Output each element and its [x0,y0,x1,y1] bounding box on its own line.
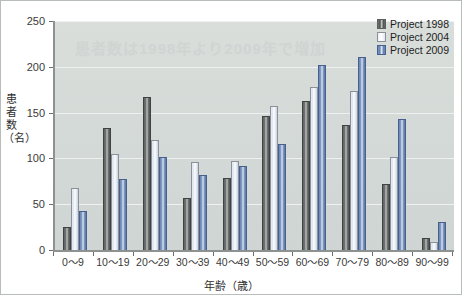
bar [310,87,318,250]
bar [71,188,79,250]
bar [79,211,87,250]
bar [422,238,430,250]
bar [223,178,231,250]
bar [191,162,199,250]
legend-item[interactable]: Project 2004 [377,31,449,43]
x-tick-label: 20〜29 [133,254,173,269]
bar [159,157,167,250]
bar [151,140,159,250]
bar-group [294,21,334,250]
bar [63,227,71,250]
x-tick-label: 70〜79 [332,254,372,269]
bar-group [334,21,374,250]
bar-group [55,21,95,250]
bar [183,198,191,250]
bar-group [95,21,135,250]
x-tick-label: 30〜39 [173,254,213,269]
bar [342,125,350,250]
bar [231,161,239,250]
x-tick-mark [452,252,453,256]
bar-group [255,21,295,250]
chart-figure: 050100150200250 患者数（名） 患者数は1998年より2009年で… [0,0,462,295]
dark-gray-bar-swatch [377,19,386,29]
y-tick-label: 150 [27,107,45,119]
bar [390,157,398,250]
x-tick-label: 0〜9 [53,254,93,269]
bar [262,116,270,250]
x-tick-label: 50〜59 [253,254,293,269]
bar [239,166,247,250]
x-tick-label: 10〜19 [93,254,133,269]
legend-label: Project 1998 [390,18,449,30]
bar-group [175,21,215,250]
bar [143,97,151,250]
x-axis-title: 年齢（歳） [1,277,461,293]
bar [382,184,390,250]
x-tick-label: 40〜49 [213,254,253,269]
bar [111,154,119,250]
x-tick-label: 60〜69 [292,254,332,269]
y-tick-label: 0 [39,244,45,256]
bar [119,179,127,250]
bar [398,119,406,250]
x-tick-label: 80〜89 [372,254,412,269]
legend-label: Project 2004 [390,31,449,43]
bar [302,101,310,250]
legend-item[interactable]: Project 2009 [377,44,449,56]
legend-item[interactable]: Project 1998 [377,18,449,30]
bar [270,106,278,250]
legend-label: Project 2009 [390,44,449,56]
bar [199,175,207,250]
y-tick-label: 200 [27,61,45,73]
y-axis-title: 患者数（名） [3,93,19,145]
blue-bar-swatch [377,45,386,55]
bar-group [215,21,255,250]
bar [358,57,366,250]
bar [430,242,438,250]
bar [103,128,111,250]
y-tick-label: 50 [33,198,45,210]
chart-legend: Project 1998Project 2004Project 2009 [375,17,451,57]
bar [278,144,286,250]
y-tick-label: 100 [27,152,45,164]
x-tick-label: 90〜99 [412,254,452,269]
bar [438,222,446,250]
white-bar-swatch [377,32,386,42]
y-tick-label: 250 [27,15,45,27]
bar [318,65,326,250]
bar-group [135,21,175,250]
x-axis-ticklabels: 0〜910〜1920〜2930〜3940〜4950〜5960〜6970〜7980… [53,254,452,269]
bar [350,91,358,250]
